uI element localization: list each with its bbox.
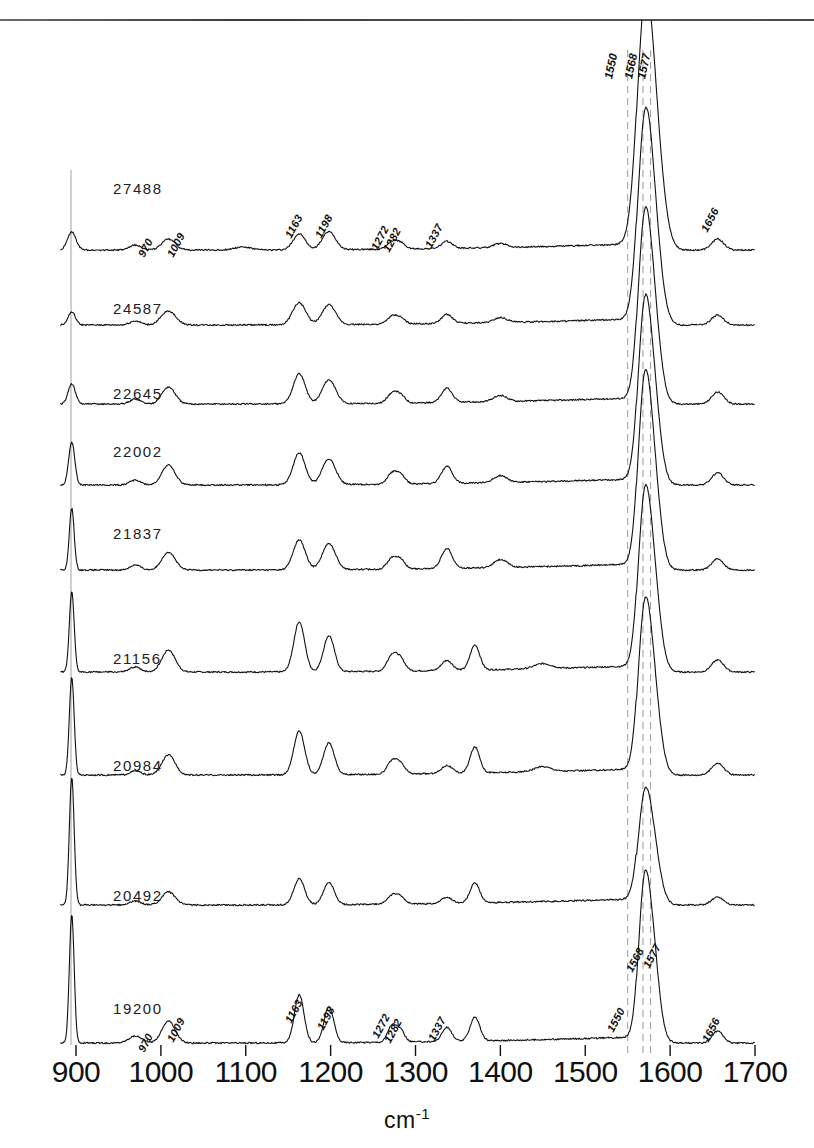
trace-label-20492: 20492 — [113, 887, 163, 904]
x-tick-label-1300: 1300 — [383, 1055, 448, 1089]
trace-label-24587: 24587 — [113, 300, 163, 317]
x-tick-label-1500: 1500 — [553, 1055, 618, 1089]
x-tick-label-1200: 1200 — [298, 1055, 363, 1089]
x-tick-label-900: 900 — [52, 1055, 101, 1089]
trace-label-27488: 27488 — [113, 180, 163, 197]
x-tick-label-1700: 1700 — [723, 1055, 788, 1089]
trace-label-19200: 19200 — [113, 1000, 163, 1017]
trace-label-21156: 21156 — [113, 650, 162, 667]
trace-label-22645: 22645 — [113, 385, 163, 402]
x-axis-label-text: cm — [384, 1107, 416, 1133]
x-axis-label: cm-1 — [0, 1105, 814, 1134]
x-tick-label-1400: 1400 — [468, 1055, 533, 1089]
trace-label-22002: 22002 — [113, 443, 163, 460]
raman-spectra-figure: Relative Intensity cm-1 9001000110012001… — [0, 0, 814, 1148]
x-tick-label-1100: 1100 — [214, 1055, 277, 1089]
trace-label-20984: 20984 — [113, 757, 163, 774]
x-tick-label-1600: 1600 — [638, 1055, 703, 1089]
x-tick-label-1000: 1000 — [129, 1055, 194, 1089]
x-axis-label-exponent: -1 — [416, 1105, 430, 1122]
trace-label-21837: 21837 — [113, 525, 163, 542]
